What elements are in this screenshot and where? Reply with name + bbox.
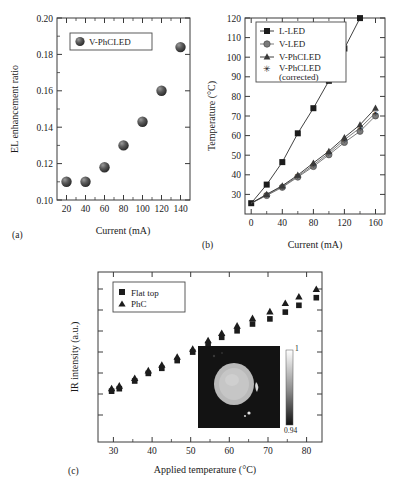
legend-marker-circle-icon	[264, 41, 270, 47]
panel-a-ylabel: EL enhancement ratio	[9, 65, 20, 153]
ytick-b-7: 100	[227, 53, 242, 63]
xtick-c-0: 30	[109, 446, 119, 456]
colorbar-min-label: 0.94	[284, 426, 297, 435]
xtick-b-1: 40	[278, 218, 288, 228]
panel-c-x-tick-labels: 30 40 50 60 70 80	[109, 446, 312, 456]
panel-a-label: (a)	[12, 230, 23, 241]
ytick-b-5: 80	[232, 92, 242, 102]
ytick-b-9: 120	[227, 14, 242, 24]
panel-c-legend: Flat top PhC	[113, 282, 185, 312]
ytick-b-3: 60	[232, 131, 242, 141]
panel-b-xlabel: Current (mA)	[288, 239, 343, 251]
ytick-a-3: 0.16	[36, 86, 53, 96]
xtick-c-5: 80	[302, 446, 312, 456]
ytick-b-2: 50	[232, 151, 242, 161]
panel-a-xlabel: Current (mA)	[96, 225, 151, 237]
legend-marker-square-icon	[264, 28, 270, 34]
ytick-a-1: 0.12	[36, 159, 53, 169]
panel-c-label: (c)	[68, 466, 79, 477]
panel-b-legend-label-0: L-LED	[279, 26, 305, 36]
inset-colorbar	[286, 350, 293, 425]
ytick-b-8: 110	[227, 33, 241, 43]
panel-b-ylabel: Temperature (°C)	[206, 81, 218, 151]
ytick-a-0: 0.10	[36, 196, 53, 206]
panel-b-legend-label-2: V-PhCLED	[279, 52, 321, 62]
xtick-a-6: 140	[173, 204, 188, 214]
xtick-b-0: 0	[249, 218, 254, 228]
panel-b: ✳ ✳ ✳ ✳ ✳ ✳ ✳ ✳	[200, 0, 401, 258]
panel-a-legend-label: V-PhCLED	[89, 37, 131, 47]
panel-a-plot-area: V-PhCLED 20 40 60 80 100 120 140 0.10 0.…	[9, 14, 190, 242]
ytick-a-2: 0.14	[36, 123, 53, 133]
ytick-b-6: 90	[232, 72, 242, 82]
xtick-a-5: 120	[154, 204, 169, 214]
ytick-b-4: 70	[232, 112, 242, 122]
panel-b-series-v-phcled	[251, 105, 379, 204]
xtick-a-0: 20	[62, 204, 72, 214]
ytick-b-1: 40	[232, 170, 242, 180]
panel-b-plot-area: ✳ ✳ ✳ ✳ ✳ ✳ ✳ ✳	[202, 14, 385, 252]
panel-a-x-tick-labels: 20 40 60 80 100 120 140	[62, 204, 188, 214]
legend-marker-square-icon	[119, 289, 125, 295]
panel-c-inset: 1 0.94	[198, 344, 299, 435]
ytick-b-0: 30	[232, 190, 242, 200]
legend-marker-sphere-icon	[75, 37, 84, 46]
panel-b-legend-label-4: (corrected)	[279, 72, 318, 82]
xtick-b-4: 160	[368, 218, 383, 228]
xtick-c-3: 60	[225, 446, 235, 456]
panel-b-y-tick-labels: 30 40 50 60 70 80 90 100 110 120	[227, 14, 242, 200]
xtick-a-3: 80	[119, 204, 129, 214]
panel-c-ylabel: IR intensity (a.u.)	[69, 322, 81, 393]
panel-c-legend-label-0: Flat top	[131, 288, 159, 298]
panel-b-x-tick-labels: 0 40 80 120 160	[249, 218, 383, 228]
ytick-a-5: 0.20	[36, 14, 53, 24]
figure-root: V-PhCLED 20 40 60 80 100 120 140 0.10 0.…	[0, 0, 401, 492]
panel-a-legend: V-PhCLED	[70, 33, 152, 50]
xtick-a-4: 100	[135, 204, 150, 214]
panel-b-label: (b)	[202, 240, 213, 251]
xtick-c-2: 50	[186, 446, 196, 456]
xtick-a-2: 60	[100, 204, 110, 214]
panel-a: V-PhCLED 20 40 60 80 100 120 140 0.10 0.…	[0, 0, 200, 258]
xtick-a-1: 40	[81, 204, 91, 214]
xtick-b-2: 80	[309, 218, 319, 228]
colorbar-max-label: 1	[295, 344, 299, 353]
xtick-c-1: 40	[147, 446, 157, 456]
panel-c-plot-area: Flat top PhC 1 0.94	[68, 272, 322, 477]
panel-c-xlabel: Applied temperature (°C)	[154, 464, 256, 476]
panel-a-y-tick-labels: 0.10 0.12 0.14 0.16 0.18 0.20	[36, 14, 53, 206]
xtick-c-4: 70	[263, 446, 273, 456]
legend-marker-star-icon: ✳	[263, 64, 271, 74]
panel-b-legend: L-LED V-LED V-PhCLED ✳ V-PhCLED (correct…	[256, 22, 346, 82]
panel-a-data-series-v-phcled	[61, 42, 185, 187]
panel-c-legend-label-1: PhC	[131, 299, 147, 309]
xtick-b-3: 120	[337, 218, 352, 228]
panel-b-legend-label-1: V-LED	[279, 39, 306, 49]
ytick-a-4: 0.18	[36, 50, 53, 60]
panel-c: Flat top PhC 1 0.94	[0, 258, 401, 492]
